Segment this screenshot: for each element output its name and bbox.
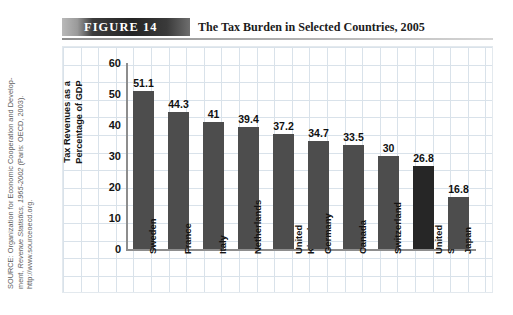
y-axis-title: Tax Revenues as a Percentage of GDP: [61, 62, 95, 182]
figure-title: The Tax Burden in Selected Countries, 20…: [198, 20, 425, 35]
y-axis-line: [126, 63, 128, 249]
bar-value-label: 41: [208, 108, 220, 120]
x-axis-category-line: United: [293, 213, 305, 254]
bar: 41: [203, 122, 224, 249]
y-axis-tick-label: 20: [109, 181, 121, 193]
bar-value-label: 26.8: [413, 152, 433, 164]
x-axis-category-label: Canada: [357, 254, 391, 266]
source-line-2-italic: Revenue Statistics, 1965-2002: [16, 168, 25, 269]
y-axis-tick-label: 40: [109, 119, 121, 131]
source-line-2: ment, Revenue Statistics, 1965-2002 (Par…: [16, 23, 26, 289]
x-axis-category-line: Switzerland: [392, 202, 404, 254]
source-note: SOURCE: Organization for Economic Cooper…: [6, 23, 62, 289]
bar-value-label: 51.1: [133, 77, 153, 89]
x-axis-category-label: Sweden: [147, 254, 182, 266]
x-axis-category-line: United: [433, 225, 445, 254]
bar-value-label: 33.5: [343, 131, 363, 143]
y-axis-title-line-1: Tax Revenues as a: [61, 62, 73, 182]
y-axis-tick-label: 10: [109, 212, 121, 224]
title-divider: [62, 38, 493, 40]
y-axis-tick-label: 30: [109, 150, 121, 162]
figure-container: SOURCE: Organization for Economic Cooper…: [0, 0, 513, 315]
source-line-2-suffix: (Paris: OECD, 2003).: [16, 96, 25, 168]
chart-panel: Tax Revenues as a Percentage of GDP 0102…: [62, 46, 493, 293]
figure-header: FIGURE 14 The Tax Burden in Selected Cou…: [62, 18, 493, 38]
y-axis-tick-label: 60: [109, 57, 121, 69]
x-axis-category-label: UnitedStates: [433, 254, 462, 277]
plot-area: Tax Revenues as a Percentage of GDP 0102…: [126, 63, 476, 249]
bar-value-label: 37.2: [273, 120, 293, 132]
x-axis-category-label: Japan: [462, 254, 489, 266]
y-axis-tick-label: 0: [115, 243, 121, 255]
bar: 26.8: [413, 166, 434, 249]
x-axis-category-line: Germany: [322, 213, 334, 254]
bar-value-label: 39.4: [238, 113, 258, 125]
source-line-1: SOURCE: Organization for Economic Cooper…: [6, 23, 16, 289]
y-axis-title-line-2: Percentage of GDP: [73, 62, 85, 182]
x-axis-category-line: Japan: [462, 227, 474, 254]
bar-value-label: 30: [383, 142, 395, 154]
x-axis-category-line: Italy: [217, 235, 229, 254]
x-axis-category-line: Netherlands: [252, 200, 264, 254]
bar-value-label: 34.7: [308, 127, 328, 139]
x-axis-category-line: Canada: [357, 220, 369, 254]
y-axis-tick-label: 50: [109, 88, 121, 100]
bar-value-label: 44.3: [168, 98, 188, 110]
bar-value-label: 16.8: [448, 183, 468, 195]
x-axis-category-line: Sweden: [147, 219, 159, 254]
x-axis-category-label: Italy: [217, 254, 236, 266]
source-line-3: http://www.sourceoecd.org.: [25, 23, 35, 289]
figure-number-label: FIGURE 14: [84, 20, 158, 35]
x-axis-category-line: France: [182, 223, 194, 254]
source-line-2-prefix: ment,: [16, 268, 25, 289]
x-axis-category-label: France: [182, 254, 213, 266]
bar: 37.2: [273, 134, 294, 249]
